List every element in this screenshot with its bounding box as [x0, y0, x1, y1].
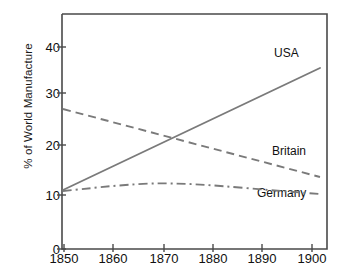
plot-svg — [0, 0, 346, 277]
x-tick-marks — [64, 244, 312, 252]
axes-frame — [62, 14, 327, 249]
series-line-britain — [63, 109, 320, 177]
line-chart-figure: % of World Manufacture 40 30 20 10 0 185… — [0, 0, 346, 277]
series-line-germany — [63, 183, 320, 194]
series-line-usa — [63, 68, 320, 190]
